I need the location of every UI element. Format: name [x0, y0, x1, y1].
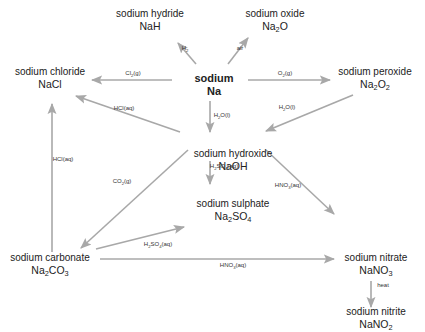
- arrow-na2o2-naoh: [266, 95, 353, 131]
- node-nah: sodium hydrideNaH: [116, 7, 184, 33]
- node-na: sodiumNa: [194, 72, 233, 98]
- compound-name: sodium nitrate: [345, 251, 408, 264]
- compound-formula: NaH: [116, 20, 184, 33]
- compound-name: sodium oxide: [246, 7, 305, 20]
- reagent-label-naoh-na2so4: H2SO4(aq): [210, 163, 238, 169]
- node-na2co3: sodium carbonateNa2CO3: [10, 251, 90, 277]
- compound-formula: Na: [194, 85, 233, 98]
- node-na2o: sodium oxideNa2O: [246, 7, 305, 33]
- reagent-label-na-na2o: air: [237, 45, 244, 51]
- compound-name: sodium chloride: [15, 65, 85, 78]
- node-na2o2: sodium peroxideNa2O2: [338, 65, 411, 91]
- compound-formula: NaNO2: [346, 318, 405, 331]
- compound-name: sodium peroxide: [338, 65, 411, 78]
- node-nano3: sodium nitrateNaNO3: [345, 251, 408, 277]
- node-naoh: sodium hydroxideNaOH: [194, 147, 272, 173]
- arrow-na-na2o: [228, 38, 248, 64]
- reagent-label-na2co3-na2so4: H2SO4(aq): [144, 241, 172, 247]
- arrow-naoh-nacl: [76, 96, 180, 132]
- node-nano2: sodium nitriteNaNO2: [346, 305, 405, 331]
- compound-formula: Na2O: [246, 20, 305, 33]
- compound-formula: Na2O2: [338, 78, 411, 91]
- reagent-label-naoh-nacl: HCl(aq): [114, 105, 135, 111]
- reagent-label-na-nacl: Cl2(g): [125, 70, 140, 76]
- reagent-label-nano3-nano2: heat: [377, 282, 389, 288]
- reagent-label-na2o2-naoh: H2O(l): [279, 104, 296, 110]
- compound-name: sodium carbonate: [10, 251, 90, 264]
- compound-name: sodium hydroxide: [194, 147, 272, 160]
- node-na2so4: sodium sulphateNa2SO4: [197, 197, 270, 223]
- compound-name: sodium hydride: [116, 7, 184, 20]
- reagent-label-na2co3-nano3: HNO3(aq): [220, 262, 246, 268]
- arrow-naoh-na2co3: [81, 150, 188, 248]
- reagent-label-na-nah: H2: [182, 45, 189, 51]
- compound-formula: NaNO3: [345, 264, 408, 277]
- compound-name: sodium sulphate: [197, 197, 270, 210]
- reagent-label-na2co3-nacl: HCl(aq): [53, 156, 74, 162]
- reagent-label-na-na2o2: O2(g): [278, 70, 292, 76]
- node-nacl: sodium chlorideNaCl: [15, 65, 85, 91]
- reagent-label-naoh-nano3: HNO3(aq): [275, 182, 301, 188]
- compound-name: sodium: [194, 72, 233, 85]
- compound-formula: Na2SO4: [197, 210, 270, 223]
- reagent-label-naoh-na2co3: CO2(g): [113, 178, 132, 184]
- compound-formula: NaCl: [15, 78, 85, 91]
- compound-formula: Na2CO3: [10, 264, 90, 277]
- compound-name: sodium nitrite: [346, 305, 405, 318]
- reagent-label-na-naoh: H2O(l): [214, 112, 231, 118]
